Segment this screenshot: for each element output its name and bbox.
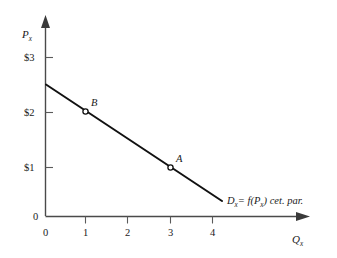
x-axis-arrow-icon <box>296 212 310 221</box>
y-tick-label-1: $1 <box>24 162 35 173</box>
x-axis-title-main: Q <box>292 233 300 245</box>
demand-curve-figure: Px Qx $3 $2 $1 0 0 1 2 3 4 B A Dx= f(Px)… <box>0 0 337 258</box>
y-tick-label-2: $2 <box>24 107 35 118</box>
y-axis-title: Px <box>21 28 33 43</box>
y-axis-title-subscript: x <box>28 35 33 43</box>
x-axis-title: Qx <box>292 233 304 248</box>
x-tick-label-2: 2 <box>125 227 130 238</box>
data-point-b-marker <box>83 109 88 114</box>
y-tick-label-0: 0 <box>33 211 38 222</box>
x-tick-label-0: 0 <box>43 227 48 238</box>
y-axis-arrow-icon <box>41 15 50 28</box>
data-point-b-label: B <box>91 97 98 108</box>
x-axis-title-subscript: x <box>299 240 304 248</box>
chart-canvas: Px Qx $3 $2 $1 0 0 1 2 3 4 B A Dx= f(Px)… <box>0 0 337 258</box>
data-point-a-label: A <box>175 153 183 164</box>
demand-curve-equation-label: Dx= f(Px) cet. par. <box>226 195 303 209</box>
x-tick-label-3: 3 <box>168 227 173 238</box>
x-tick-label-4: 4 <box>210 227 216 238</box>
data-point-a-marker <box>168 165 173 170</box>
demand-curve-line <box>46 85 222 202</box>
y-tick-label-3: $3 <box>24 52 35 63</box>
curve-label-equation-mid: = f(P <box>238 195 261 207</box>
curve-label-equation-tail: ) cet. par. <box>263 195 304 207</box>
x-tick-label-1: 1 <box>83 227 88 238</box>
